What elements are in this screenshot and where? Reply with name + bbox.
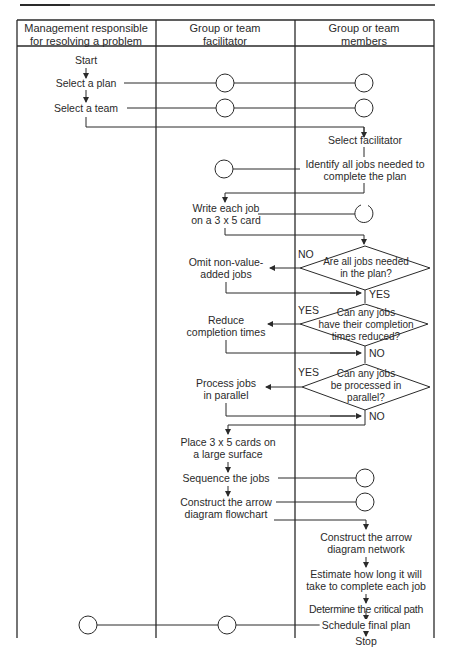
step-omit-jobs: Omit non-value- added jobs	[189, 256, 264, 280]
step-start: Start	[75, 54, 97, 66]
decision1-yes-label: YES	[369, 288, 390, 300]
step-reduce-times: Reduce completion times	[187, 314, 266, 338]
circle-sequence-members	[356, 469, 374, 487]
header-facilitator: Group or team facilitator	[190, 22, 261, 47]
write-line2: on a 3 x 5 card	[191, 214, 260, 226]
circle-construct-members	[356, 493, 374, 511]
decision2-line1: Can any jobs	[318, 307, 413, 319]
decision2-line3: times reduced?	[318, 331, 413, 343]
identify-line1: Identify all jobs needed to	[305, 158, 424, 170]
decision3-text: Can any jobs be processed in parallel?	[331, 368, 402, 404]
decision3-yes-label: YES	[298, 366, 319, 378]
estimate-line2: take to complete each job	[306, 580, 426, 592]
construct-line2: diagram flowchart	[180, 508, 272, 520]
decision3-no-label: NO	[369, 410, 385, 422]
construct-line1: Construct the arrow	[180, 496, 272, 508]
estimate-line1: Estimate how long it will	[306, 568, 426, 580]
header-management-line1: Management responsible	[24, 22, 148, 35]
circle-plan-members	[355, 74, 373, 92]
place-line1: Place 3 x 5 cards on	[180, 436, 275, 448]
step-place-cards: Place 3 x 5 cards on a large surface	[180, 436, 275, 460]
network-line2: diagram network	[320, 543, 412, 555]
step-stop: Stop	[355, 635, 377, 647]
step-construct-network: Construct the arrow diagram network	[320, 531, 412, 555]
header-facilitator-line1: Group or team	[190, 22, 261, 35]
identify-line2: complete the plan	[305, 170, 424, 182]
header-management: Management responsible for resolving a p…	[24, 22, 148, 47]
decision3-line2: be processed in	[331, 380, 402, 392]
decision2-no-label: NO	[369, 347, 385, 359]
network-line1: Construct the arrow	[320, 531, 412, 543]
decision2-text: Can any jobs have their completion times…	[318, 307, 413, 343]
decision1-text: Are all jobs needed in the plan?	[323, 256, 409, 280]
circle-schedule-management	[79, 616, 97, 634]
circle-schedule-facilitator	[218, 616, 236, 634]
decision3-line1: Can any jobs	[331, 368, 402, 380]
circle-team-facilitator	[216, 99, 234, 117]
decision2-line2: have their completion	[318, 319, 413, 331]
step-write-cards: Write each job on a 3 x 5 card	[191, 202, 260, 226]
step-process-parallel: Process jobs in parallel	[196, 377, 256, 401]
circle-identify-facilitator	[215, 160, 233, 178]
decision1-line1: Are all jobs needed	[323, 256, 409, 268]
line-omit-to-yes	[226, 282, 355, 293]
step-construct-flowchart: Construct the arrow diagram flowchart	[180, 496, 272, 520]
step-select-team: Select a team	[54, 102, 118, 114]
decision3-line3: parallel?	[331, 392, 402, 404]
line-decision3-no-to-place	[228, 410, 365, 425]
line-team-to-facilitator	[86, 117, 364, 135]
deployment-flowchart: Management responsible for resolving a p…	[0, 0, 452, 658]
header-members-line2: members	[329, 35, 400, 48]
step-schedule-plan: Schedule final plan	[320, 619, 413, 631]
step-select-plan: Select a plan	[56, 77, 117, 89]
line-parallel-to-no	[226, 403, 355, 416]
decision1-no-label: NO	[298, 248, 314, 260]
step-estimate-times: Estimate how long it will take to comple…	[306, 568, 426, 592]
reduce-line1: Reduce	[187, 314, 266, 326]
step-critical-path: Determine the critical path	[309, 603, 423, 615]
header-management-line2: for resolving a problem	[24, 35, 148, 48]
circle-team-members	[355, 99, 373, 117]
parallel-line1: Process jobs	[196, 377, 256, 389]
header-members: Group or team members	[329, 22, 400, 47]
header-facilitator-line2: facilitator	[190, 35, 261, 48]
circle-plan-facilitator	[216, 74, 234, 92]
reduce-line2: completion times	[187, 326, 266, 338]
omit-line2: added jobs	[189, 268, 264, 280]
decision2-yes-label: YES	[298, 304, 319, 316]
step-select-facilitator: Select facilitator	[328, 134, 402, 146]
circle-write-members	[355, 205, 373, 223]
step-sequence-jobs: Sequence the jobs	[183, 472, 270, 484]
step-identify-jobs: Identify all jobs needed to complete the…	[305, 158, 424, 182]
header-members-line1: Group or team	[329, 22, 400, 35]
place-line2: a large surface	[180, 448, 275, 460]
parallel-line2: in parallel	[196, 389, 256, 401]
decision1-line2: in the plan?	[323, 268, 409, 280]
write-line1: Write each job	[191, 202, 260, 214]
omit-line1: Omit non-value-	[189, 256, 264, 268]
